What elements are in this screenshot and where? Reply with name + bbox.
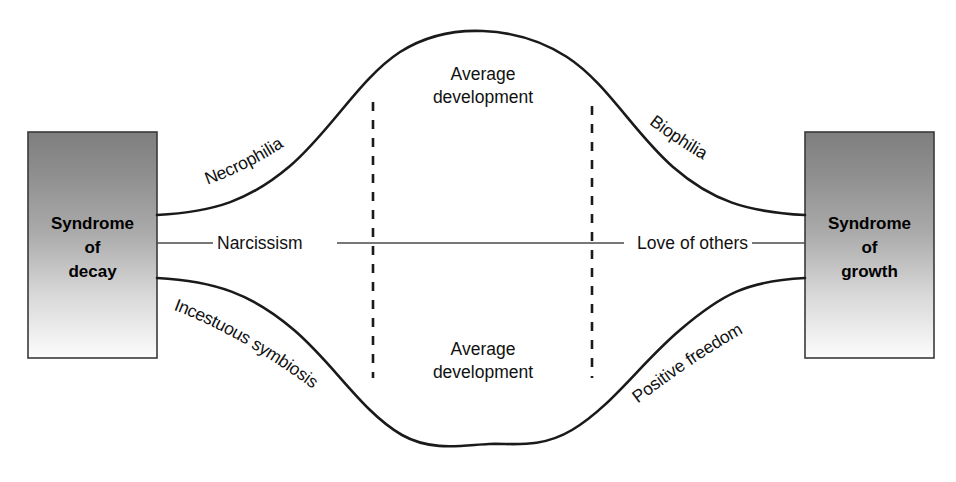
curve-label-necrophilia-text: Necrophilia: [202, 133, 287, 189]
left-syndrome-box: Syndrome of decay: [28, 132, 157, 358]
right-box-line1: Syndrome: [828, 214, 911, 233]
axis-label-narcissism: Narcissism: [217, 233, 303, 253]
upper-average-development-line1: Average: [451, 64, 516, 84]
axis-label-love-of-others: Love of others: [637, 233, 748, 253]
syndrome-diagram: Syndrome of decay Syndrome of growth Nar…: [0, 0, 956, 482]
right-syndrome-box: Syndrome of growth: [805, 132, 934, 358]
curve-label-biophilia: Biophilia: [646, 111, 711, 164]
lower-average-development-line1: Average: [451, 339, 516, 359]
curve-label-incestuous-symbiosis: Incestuous symbiosis: [172, 295, 323, 392]
right-box-line2: of: [861, 238, 877, 257]
lower-average-development-line2: development: [433, 362, 533, 382]
upper-bell-curve: [157, 31, 805, 215]
left-box-line1: Syndrome: [51, 214, 134, 233]
upper-average-development-line2: development: [433, 87, 533, 107]
left-box-line3: decay: [68, 262, 117, 281]
curve-label-incestuous-symbiosis-text: Incestuous symbiosis: [172, 295, 323, 392]
curve-label-biophilia-text: Biophilia: [646, 111, 711, 164]
diagram-canvas: Syndrome of decay Syndrome of growth Nar…: [0, 0, 956, 482]
right-box-line3: growth: [841, 262, 898, 281]
left-box-line2: of: [84, 238, 100, 257]
curve-label-necrophilia: Necrophilia: [202, 133, 287, 189]
